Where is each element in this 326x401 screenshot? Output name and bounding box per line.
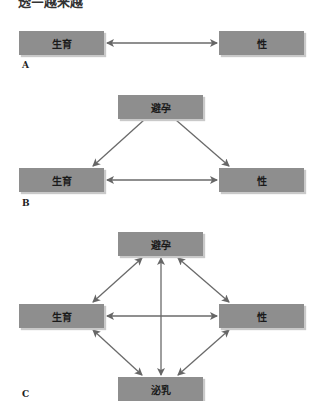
node-label: 性 bbox=[257, 309, 267, 324]
arrow-c-fertility-lactation bbox=[93, 330, 142, 375]
arrow-c-contraception-sex bbox=[178, 258, 229, 302]
panel-a-label: A bbox=[22, 60, 29, 70]
panel-b-node-fertility: 生育 bbox=[19, 168, 104, 192]
node-label: 性 bbox=[257, 173, 267, 188]
node-label: 避孕 bbox=[151, 237, 171, 252]
panel-c-node-fertility: 生育 bbox=[19, 304, 104, 328]
node-label: 生育 bbox=[52, 173, 72, 188]
arrow-c-contraception-fertility bbox=[93, 258, 142, 302]
arrow-b-contraception-sex bbox=[176, 120, 229, 166]
node-label: 避孕 bbox=[151, 100, 171, 115]
panel-c-node-contraception: 避孕 bbox=[118, 232, 203, 256]
panel-c-node-lactation: 泌乳 bbox=[118, 377, 203, 401]
node-label: 生育 bbox=[52, 309, 72, 324]
node-label: 生育 bbox=[52, 36, 72, 51]
panel-c-node-sex: 性 bbox=[219, 304, 304, 328]
panel-b-node-sex: 性 bbox=[219, 168, 304, 192]
panel-b-label: B bbox=[22, 198, 30, 208]
panel-b-node-contraception: 避孕 bbox=[118, 95, 203, 119]
arrow-c-sex-lactation bbox=[178, 330, 229, 375]
node-label: 性 bbox=[257, 36, 267, 51]
arrow-b-contraception-fertility bbox=[93, 120, 144, 166]
panel-a-node-sex: 性 bbox=[219, 31, 304, 55]
panel-c-label: C bbox=[22, 389, 29, 399]
node-label: 泌乳 bbox=[151, 382, 171, 397]
panel-a-node-fertility: 生育 bbox=[19, 31, 104, 55]
